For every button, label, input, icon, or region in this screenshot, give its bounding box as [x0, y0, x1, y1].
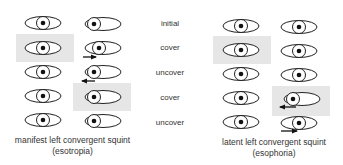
step-label-cover: cover	[135, 43, 205, 52]
eye-icon	[281, 117, 317, 130]
caption-esotropia: manifest left convergent squint (esotrop…	[0, 135, 145, 157]
step-label-uncover: uncover	[135, 68, 205, 77]
step-label-initial: initial	[135, 19, 205, 28]
eye-icon	[281, 45, 317, 58]
eye-icon	[284, 93, 320, 106]
eye-icon	[85, 91, 121, 104]
eye-icon	[281, 21, 317, 34]
eye-icon	[85, 66, 121, 79]
eye-icon	[223, 68, 259, 81]
caption-esophoria: latent left convergent squint (esophoria…	[205, 137, 343, 159]
eye-icon	[25, 42, 61, 55]
eye-icon	[223, 20, 259, 33]
eye-icon	[25, 66, 61, 79]
eye-icon	[223, 116, 259, 129]
caption-title: latent left convergent squint	[205, 137, 343, 148]
step-label-uncover: uncover	[135, 118, 205, 127]
eye-icon	[281, 69, 317, 82]
cover-test-diagram: initial cover uncover cover uncover mani…	[0, 0, 343, 165]
eye-icon	[223, 44, 259, 57]
caption-subtitle: (esophoria)	[205, 148, 343, 159]
eye-icon	[25, 17, 61, 30]
step-label-cover: cover	[135, 93, 205, 102]
caption-subtitle: (esotropia)	[0, 146, 145, 157]
eye-icon	[85, 115, 121, 128]
caption-title: manifest left convergent squint	[0, 135, 145, 146]
eye-icon	[25, 114, 61, 127]
eye-icon	[85, 18, 121, 31]
eye-icon	[85, 42, 121, 55]
eye-icon	[25, 90, 61, 103]
eye-icon	[223, 92, 259, 105]
